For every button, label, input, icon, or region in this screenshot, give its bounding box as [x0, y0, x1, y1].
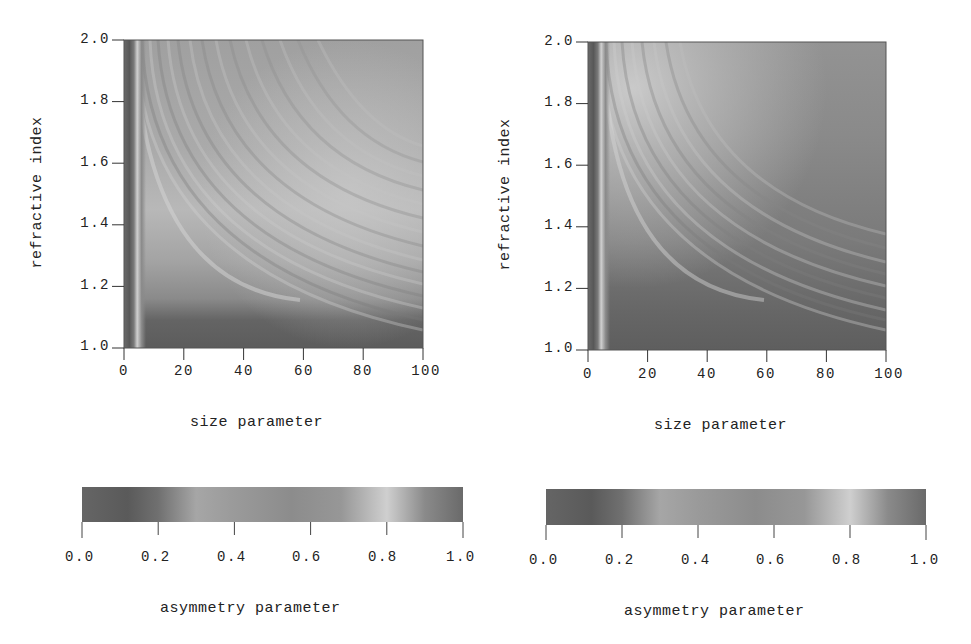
right-heatmap-panel: 2.0 1.8 1.6 1.4 1.2 1.0 0 20 40 60 80 10…: [464, 0, 971, 644]
right-colorbar: [464, 0, 971, 560]
colorbar-tick-label: 0.6: [292, 549, 322, 565]
colorbar-tick-label: 0.8: [832, 552, 862, 568]
colorbar-tick-label: 1.0: [910, 552, 940, 568]
left-heatmap-panel: 2.0 1.8 1.6 1.4 1.2 1.0 0 20 40 60 80 10…: [0, 0, 480, 644]
colorbar-tick-label: 0.0: [65, 549, 95, 565]
colorbar-tick-label: 0.8: [368, 549, 398, 565]
colorbar-tick-label: 0.4: [681, 552, 711, 568]
colorbar-tick-label: 0.0: [529, 552, 559, 568]
left-colorbar: [0, 0, 480, 560]
colorbar-tick-label: 0.4: [217, 549, 247, 565]
colorbar-tick-label: 0.2: [141, 549, 171, 565]
colorbar-tick-label: 0.2: [605, 552, 635, 568]
colorbar-tick-label: 0.6: [756, 552, 786, 568]
colorbar-label: asymmetry parameter: [624, 603, 805, 620]
colorbar-label: asymmetry parameter: [160, 600, 341, 617]
